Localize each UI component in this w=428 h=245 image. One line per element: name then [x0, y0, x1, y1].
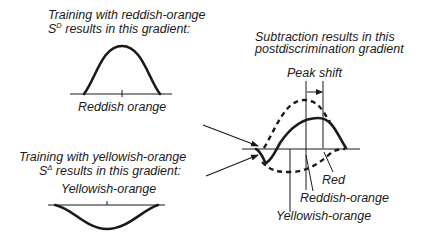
sd-caption-line2: SD results in this gradient:: [48, 21, 190, 36]
sdelta-caption-line1: Training with yellowish-orange: [19, 150, 186, 164]
result-panel: Subtraction results in this postdiscrimi…: [242, 30, 404, 223]
sdelta-inhibitory-curve: [55, 205, 158, 229]
label-reddish-orange: Reddish-orange: [300, 191, 389, 205]
sd-excitatory-curve: [84, 46, 160, 94]
label-yellowish-orange: Yellowish-orange: [276, 209, 371, 223]
reddish-orange-leader: [306, 155, 313, 191]
label-red: Red: [322, 173, 346, 187]
result-caption-line2: postdiscrimination gradient: [254, 42, 404, 56]
sdelta-axis-label: Yellowish-orange: [61, 182, 156, 196]
sdelta-panel: Training with yellowish-orange SΔ result…: [19, 150, 186, 229]
sd-axis-label: Reddish orange: [78, 100, 166, 114]
arrow-from-sd: [203, 125, 258, 146]
sd-caption-line1: Training with reddish-orange: [48, 8, 206, 22]
arrow-from-sdelta: [206, 155, 258, 176]
sdelta-caption-line2: SΔ results in this gradient:: [39, 163, 181, 178]
sd-panel: Training with reddish-orange SD results …: [48, 8, 206, 114]
peak-shift-label: Peak shift: [287, 66, 342, 80]
peak-shift-diagram: Training with reddish-orange SD results …: [0, 0, 428, 245]
